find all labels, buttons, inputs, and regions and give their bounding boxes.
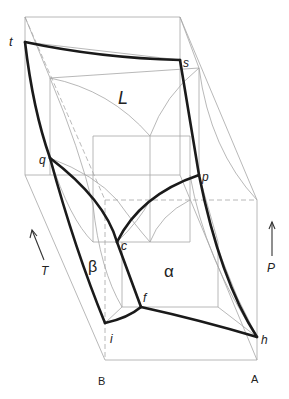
region-alpha-label: α (164, 262, 174, 281)
point-t-label: t (9, 34, 14, 49)
boundary-p-h (199, 175, 257, 337)
pressure-axis-label: P (267, 261, 275, 275)
pressure-axis: P (267, 222, 275, 275)
temperature-axis-label: T (41, 264, 50, 278)
region-liquid-label: L (118, 88, 128, 108)
component-a-label: A (251, 373, 259, 385)
component-b-label: B (98, 375, 105, 387)
phase-diagram: T P t s L q p c β α f i h B A (0, 0, 289, 399)
point-i-label: i (110, 332, 113, 346)
point-h-label: h (261, 333, 268, 347)
point-s-label: s (183, 56, 189, 70)
boundary-p-c (117, 175, 199, 242)
temperature-axis: T (30, 230, 50, 278)
point-f-label: f (143, 291, 148, 305)
region-beta-label: β (88, 258, 97, 275)
phase-boundaries (25, 42, 257, 337)
point-c-label: c (121, 239, 127, 253)
point-p-label: p (201, 170, 209, 184)
boundary-s-p (180, 60, 199, 175)
boundary-t-q (25, 42, 50, 158)
temperature-arrow-icon (32, 230, 44, 260)
boundary-i-f (105, 307, 141, 323)
point-q-label: q (39, 153, 46, 167)
boundary-f-h (141, 307, 257, 337)
